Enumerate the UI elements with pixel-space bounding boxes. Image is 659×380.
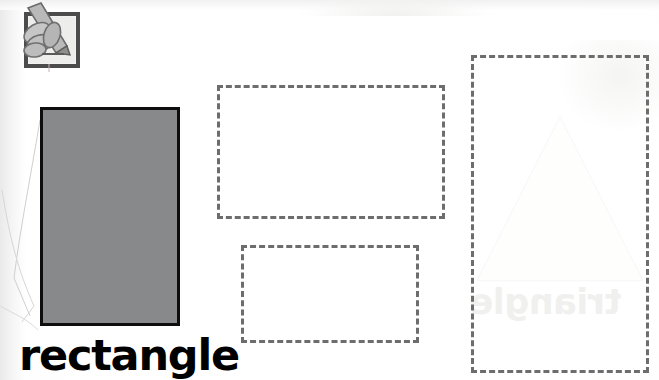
model-rectangle-shape [40, 107, 180, 326]
shape-label: rectangle [19, 332, 239, 378]
trace-rectangle-large[interactable] [217, 85, 445, 219]
scan-edge-top [0, 0, 659, 10]
worksheet-page: triangle [0, 0, 659, 380]
hand-holding-pencil-icon [12, 2, 86, 72]
trace-rectangle-small[interactable] [241, 245, 419, 343]
bleed-through-top-smudge [300, 0, 490, 16]
trace-rectangle-tall[interactable] [471, 55, 649, 373]
